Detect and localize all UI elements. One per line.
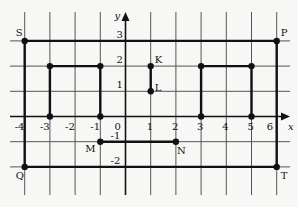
point-dot: [97, 113, 103, 119]
point-label-q: Q: [16, 170, 24, 181]
point-m: [97, 139, 103, 145]
grid-svg: xy-4-3-2-10123456321-1-2SPTQKLMN: [0, 0, 298, 207]
point-p: [274, 38, 280, 44]
point-s: [22, 38, 28, 44]
point-dot: [47, 63, 53, 69]
x-axis-arrow-icon: [281, 113, 290, 121]
x-tick-label: 6: [267, 121, 273, 132]
x-tick-label: -4: [15, 121, 25, 132]
point-dot: [248, 63, 254, 69]
point-l: [148, 88, 154, 94]
y-axis-label: y: [114, 10, 121, 21]
x-tick-label: -2: [65, 121, 75, 132]
x-tick-label: 4: [222, 121, 228, 132]
x-tick-label: 2: [172, 121, 178, 132]
point-dot: [47, 113, 53, 119]
x-tick-label: -3: [40, 121, 50, 132]
point-label-t: T: [281, 170, 288, 181]
point-k: [148, 63, 154, 69]
x-axis-label: x: [288, 121, 294, 132]
x-tick-label: 5: [248, 121, 254, 132]
y-axis-arrow-icon: [122, 12, 130, 21]
coordinate-grid-diagram: xy-4-3-2-10123456321-1-2SPTQKLMN: [0, 0, 298, 207]
point-label-n: N: [177, 145, 186, 156]
point-dot: [248, 113, 254, 119]
point-label-k: K: [155, 54, 163, 65]
point-label-m: M: [85, 143, 95, 154]
point-dot: [198, 63, 204, 69]
point-dot: [97, 63, 103, 69]
point-t: [274, 164, 280, 170]
x-tick-label: 1: [147, 121, 153, 132]
x-tick-label: 3: [197, 121, 203, 132]
y-tick-label: -2: [111, 155, 121, 166]
x-tick-label: -1: [90, 121, 100, 132]
y-tick-label: -1: [111, 130, 121, 141]
y-tick-label: 2: [117, 54, 123, 65]
point-label-l: L: [155, 82, 162, 93]
point-label-p: P: [281, 27, 288, 38]
y-tick-label: 3: [117, 29, 123, 40]
point-dot: [198, 113, 204, 119]
y-tick-label: 1: [117, 79, 123, 90]
point-label-s: S: [16, 27, 23, 38]
